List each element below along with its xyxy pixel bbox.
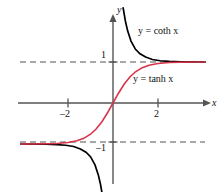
y-axis-label: y [117, 5, 121, 15]
coth-negative-branch [21, 144, 103, 192]
plot-canvas [0, 0, 224, 192]
tanh-curve-label: y = tanh x [133, 74, 173, 84]
hyperbolic-functions-figure: y x –2 2 1 –1 y = coth x y = tanh x [0, 0, 224, 192]
x-axis-label: x [212, 98, 216, 108]
x-tick-label-minus2: –2 [60, 109, 70, 119]
y-tick-label-1: 1 [101, 50, 106, 60]
coth-curve-label: y = coth x [138, 26, 178, 36]
y-tick-label-minus1: –1 [96, 143, 106, 153]
x-tick-label-2: 2 [154, 109, 159, 119]
